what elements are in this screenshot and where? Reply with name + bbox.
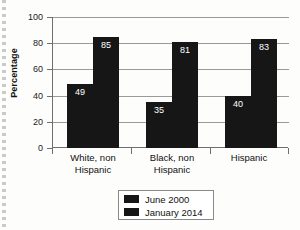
- y-tick-label-60: 60: [0, 64, 43, 74]
- bar-value-black-june-2000: 35: [146, 105, 172, 115]
- x-tick-mark-1: [131, 148, 132, 154]
- bar-white-june-2000: 49: [67, 84, 93, 148]
- bar-value-black-january-2014: 81: [172, 45, 198, 55]
- legend-entry-january-2014: January 2014: [124, 206, 213, 218]
- category-label-hispanic: Hispanic: [214, 152, 284, 164]
- bar-hispanic-january-2014: 83: [251, 39, 277, 148]
- bar-chart: Percentage 0 20 40 60 80 100 49 85: [0, 0, 300, 230]
- legend-entry-june-2000: June 2000: [124, 193, 213, 205]
- category-label-black-non-hispanic: Black, non Hispanic: [137, 152, 207, 175]
- y-tick-label-20: 20: [0, 117, 43, 127]
- y-tick-label-100: 100: [0, 12, 43, 22]
- chart-legend: June 2000 January 2014: [118, 190, 214, 220]
- y-tick-label-80: 80: [0, 38, 43, 48]
- plot-area: 49 85 35 81 40 83: [52, 17, 288, 148]
- bar-black-january-2014: 81: [172, 42, 198, 148]
- bar-white-january-2014: 85: [93, 37, 119, 148]
- bar-black-june-2000: 35: [146, 102, 172, 148]
- category-label-white-non-hispanic: White, non Hispanic: [58, 152, 128, 175]
- y-tick-label-40: 40: [0, 91, 43, 101]
- plot-inner: 49 85 35 81 40 83: [53, 17, 288, 147]
- category-label-line-1: White, non: [58, 152, 128, 164]
- bar-value-hispanic-june-2000: 40: [225, 99, 251, 109]
- category-label-line-1: Black, non: [137, 152, 207, 164]
- category-label-line-2: Hispanic: [137, 164, 207, 176]
- category-label-line-1: Hispanic: [214, 152, 284, 164]
- bar-value-hispanic-january-2014: 83: [251, 42, 277, 52]
- legend-swatch-icon: [124, 208, 139, 216]
- legend-swatch-icon: [124, 195, 139, 203]
- gridline-100: [53, 17, 289, 18]
- bar-hispanic-june-2000: 40: [225, 96, 251, 148]
- legend-label-june-2000: June 2000: [145, 194, 189, 205]
- category-label-line-2: Hispanic: [58, 164, 128, 176]
- bar-value-white-january-2014: 85: [93, 40, 119, 50]
- x-tick-mark-0: [52, 148, 53, 154]
- legend-label-january-2014: January 2014: [145, 207, 203, 218]
- bar-value-white-june-2000: 49: [67, 87, 93, 97]
- x-tick-mark-2: [210, 148, 211, 154]
- x-tick-mark-3: [288, 148, 289, 154]
- y-tick-label-0: 0: [0, 143, 43, 153]
